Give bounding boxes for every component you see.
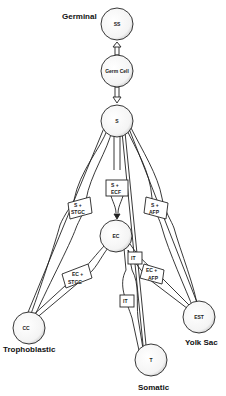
svg-text:S +: S + xyxy=(111,182,119,188)
arrow-germcell-to-s xyxy=(113,87,121,103)
svg-text:T: T xyxy=(149,357,152,363)
svg-text:EC +: EC + xyxy=(72,271,83,277)
label-germinal: Germinal xyxy=(62,12,97,21)
svg-text:EC +: EC + xyxy=(146,267,157,273)
svg-text:AFP: AFP xyxy=(149,209,160,215)
svg-text:S +: S + xyxy=(151,202,159,208)
path-s-to-cc xyxy=(24,128,112,322)
label-yolk-sac: Yolk Sac xyxy=(185,338,218,347)
node-s: S xyxy=(101,105,133,137)
transition-s-afp: S + AFP xyxy=(144,197,168,219)
svg-text:EC: EC xyxy=(113,233,120,239)
node-ss: SS xyxy=(101,8,133,40)
transition-ec-stgc: EC + STGC xyxy=(62,264,92,288)
svg-text:EST: EST xyxy=(194,314,204,320)
node-t: T xyxy=(135,344,167,376)
svg-text:SS: SS xyxy=(114,21,121,27)
transition-it-upper: IT xyxy=(128,252,142,264)
label-trophoblastic: Trophoblastic xyxy=(3,345,55,354)
path-s-to-ec xyxy=(110,132,124,219)
transition-s-stgc: S + STGC xyxy=(68,197,92,219)
transition-it-lower: IT xyxy=(120,295,134,307)
node-ec: EC xyxy=(100,220,132,252)
node-cc: CC xyxy=(13,312,45,344)
svg-text:S +: S + xyxy=(74,202,82,208)
svg-text:IT: IT xyxy=(131,255,135,261)
node-germ-cell: Germ Cell xyxy=(101,55,133,87)
svg-text:CC: CC xyxy=(22,325,30,331)
svg-text:Germ Cell: Germ Cell xyxy=(105,68,129,74)
svg-text:AFP: AFP xyxy=(148,275,159,281)
svg-text:STGC: STGC xyxy=(71,209,85,215)
transition-s-ecf: S + ECF xyxy=(106,180,128,196)
label-somatic: Somatic xyxy=(138,383,169,392)
transition-ec-afp: EC + AFP xyxy=(140,264,164,284)
node-est: EST xyxy=(183,301,215,333)
svg-text:STGC: STGC xyxy=(68,279,82,285)
svg-text:IT: IT xyxy=(123,298,127,304)
lineage-diagram: S + STGC S + ECF S + AFP EC + STGC EC + … xyxy=(0,0,226,396)
arrow-germcell-to-ss xyxy=(113,42,121,55)
svg-text:ECF: ECF xyxy=(111,189,121,195)
